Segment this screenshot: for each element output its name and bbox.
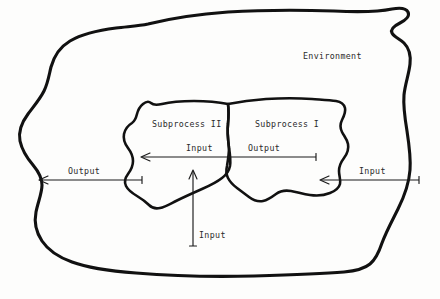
input-middle-label: Input <box>186 144 213 152</box>
subprocess-two-boundary <box>124 101 231 208</box>
output-left-label: Output <box>68 167 100 175</box>
input-right-label: Input <box>359 167 386 175</box>
subprocess-one-boundary <box>226 98 348 201</box>
process-environment-diagram: Environment Subprocess II Subprocess I O… <box>0 0 440 299</box>
environment-label: Environment <box>303 52 362 60</box>
input-bottom-label: Input <box>199 231 226 239</box>
flow-input-right-external <box>320 176 419 184</box>
diagram-canvas <box>0 0 440 299</box>
output-middle-label: Output <box>248 144 280 152</box>
subprocess-two-label: Subprocess II <box>152 120 222 128</box>
subprocess-one-label: Subprocess I <box>255 120 319 128</box>
flow-input-bottom <box>189 170 197 246</box>
